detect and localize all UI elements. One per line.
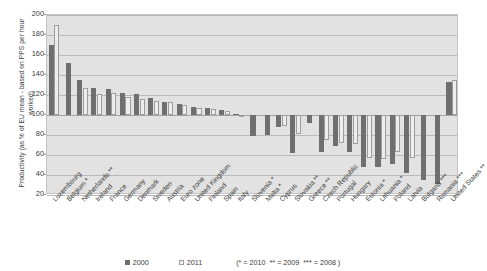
bar-2011-23: [381, 115, 386, 159]
bar-2011-5: [125, 97, 130, 115]
legend-swatch-2000: [125, 260, 130, 265]
y-tickmark-80: [43, 134, 46, 135]
bar-2011-6: [140, 99, 145, 115]
bar-2000-14: [250, 115, 255, 136]
legend-label-2011: 2011: [187, 258, 202, 267]
bar-2000-2: [77, 80, 82, 115]
bar-2011-7: [154, 101, 159, 115]
bar-2000-24: [390, 115, 395, 164]
chart-legend: 2000 2011 (* = 2010 ** = 2009 *** = 2008…: [0, 256, 465, 269]
bar-2011-24: [395, 115, 400, 152]
bar-2011-21: [353, 115, 358, 144]
legend-label-2000: 2000: [133, 258, 149, 267]
bar-2000-3: [91, 88, 96, 115]
bar-2011-17: [296, 115, 301, 134]
y-tick-100: 100: [22, 109, 44, 118]
bar-2011-22: [367, 115, 372, 158]
bar-2000-15: [265, 115, 270, 135]
bar-2000-5: [120, 93, 125, 115]
bar-2000-20: [333, 115, 338, 146]
legend-swatch-2011: [179, 260, 184, 265]
legend-item-2000: 2000: [125, 258, 149, 267]
bar-2011-9: [182, 105, 187, 115]
bar-2000-26: [421, 115, 426, 180]
y-tick-200: 200: [22, 9, 44, 18]
bar-2011-12: [225, 111, 230, 115]
bar-2011-0: [54, 25, 59, 115]
y-tickmark-40: [43, 174, 46, 175]
bar-2011-3: [97, 94, 102, 115]
bar-2011-4: [111, 93, 116, 115]
bar-2011-19: [324, 115, 329, 140]
bar-2000-21: [347, 115, 352, 152]
bar-2011-2: [83, 88, 88, 115]
y-tickmark-200: [43, 14, 46, 15]
bar-2000-11: [205, 108, 210, 115]
bar-2011-8: [168, 102, 173, 115]
y-tick-40: 40: [22, 169, 44, 178]
bar-2000-17: [290, 115, 295, 153]
y-tickmark-140: [43, 74, 46, 75]
bar-2000-27: [435, 115, 440, 184]
y-tickmark-120: [43, 94, 46, 95]
bar-2000-25: [404, 115, 409, 173]
y-tickmark-20: [43, 194, 46, 195]
bar-2000-13: [233, 114, 238, 115]
bar-2000-6: [134, 94, 139, 115]
y-tick-180: 180: [22, 29, 44, 38]
bar-2011-20: [339, 115, 344, 143]
bar-2011-10: [196, 108, 201, 115]
y-tick-80: 80: [22, 129, 44, 138]
bar-2000-10: [191, 107, 196, 115]
bar-2000-22: [361, 115, 366, 167]
bar-2000-7: [148, 98, 153, 115]
bar-2000-1: [66, 63, 71, 115]
y-tickmark-100: [43, 114, 46, 115]
bar-2011-11: [211, 109, 216, 115]
bar-2000-8: [162, 102, 167, 115]
y-tickmark-60: [43, 154, 46, 155]
bar-2000-9: [177, 104, 182, 115]
bar-2011-13: [239, 115, 244, 117]
y-tick-120: 120: [22, 89, 44, 98]
bar-2000-19: [319, 115, 324, 152]
bar-2011-28: [452, 80, 457, 115]
bar-2011-25: [410, 115, 415, 158]
bar-2000-16: [276, 115, 281, 127]
bar-2000-18: [307, 115, 312, 123]
bar-2000-12: [219, 110, 224, 115]
y-tick-60: 60: [22, 149, 44, 158]
y-tickmark-180: [43, 34, 46, 35]
y-tick-160: 160: [22, 49, 44, 58]
x-axis-category-labels: LuxembourgBelgium *Netherlands **Ireland…: [0, 196, 465, 256]
y-tick-140: 140: [22, 69, 44, 78]
y-tickmark-160: [43, 54, 46, 55]
bar-2000-4: [106, 89, 111, 115]
bar-2000-28: [446, 82, 451, 115]
bar-2011-16: [282, 115, 287, 126]
bar-2000-0: [49, 45, 54, 115]
legend-footnote: (* = 2010 ** = 2009 *** = 2008 ): [236, 258, 340, 267]
legend-item-2011: 2011: [179, 258, 202, 267]
bar-2000-23: [375, 115, 380, 167]
